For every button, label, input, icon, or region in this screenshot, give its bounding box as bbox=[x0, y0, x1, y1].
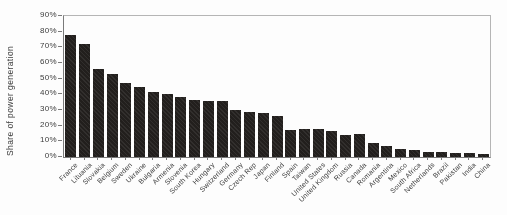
x-tick-mark bbox=[235, 157, 236, 160]
x-tick-mark bbox=[455, 157, 456, 160]
x-tick-mark bbox=[400, 157, 401, 160]
y-tick-mark bbox=[58, 31, 62, 32]
bar bbox=[93, 69, 104, 157]
bar bbox=[162, 94, 173, 157]
x-tick-mark bbox=[194, 157, 195, 160]
x-tick-mark bbox=[413, 157, 414, 160]
y-tick-label: 40% bbox=[27, 88, 57, 98]
y-tick-mark bbox=[58, 15, 62, 16]
y-tick-label: 0% bbox=[27, 151, 57, 161]
y-axis-title: Share of power generation bbox=[5, 15, 15, 156]
bar bbox=[285, 130, 296, 157]
x-tick-mark bbox=[317, 157, 318, 160]
plot-area bbox=[63, 15, 491, 158]
bar bbox=[340, 135, 351, 157]
bar bbox=[326, 131, 337, 157]
bar bbox=[175, 97, 186, 157]
x-tick-mark bbox=[125, 157, 126, 160]
x-tick-mark bbox=[70, 157, 71, 160]
bar bbox=[79, 44, 90, 157]
y-tick-mark bbox=[58, 93, 62, 94]
bar bbox=[65, 35, 76, 157]
x-tick-mark bbox=[262, 157, 263, 160]
y-tick-mark bbox=[58, 125, 62, 126]
y-tick-mark bbox=[58, 62, 62, 63]
x-tick-mark bbox=[386, 157, 387, 160]
x-tick-mark bbox=[345, 157, 346, 160]
bar bbox=[107, 74, 118, 157]
y-tick-label: 50% bbox=[27, 73, 57, 83]
bar bbox=[217, 101, 228, 157]
y-tick-mark bbox=[58, 46, 62, 47]
nuclear-share-bar-chart: Share of power generation 0%10%20%30%40%… bbox=[0, 0, 507, 215]
x-tick-mark bbox=[358, 157, 359, 160]
y-tick-label: 90% bbox=[27, 10, 57, 20]
x-tick-mark bbox=[331, 157, 332, 160]
y-tick-label: 80% bbox=[27, 26, 57, 36]
bar bbox=[244, 112, 255, 157]
x-tick-mark bbox=[290, 157, 291, 160]
x-tick-mark bbox=[249, 157, 250, 160]
x-tick-mark bbox=[207, 157, 208, 160]
bar bbox=[395, 149, 406, 157]
x-tick-mark bbox=[303, 157, 304, 160]
x-tick-mark bbox=[152, 157, 153, 160]
y-tick-label: 60% bbox=[27, 57, 57, 67]
bar bbox=[464, 153, 475, 157]
bar bbox=[258, 113, 269, 157]
x-tick-mark bbox=[111, 157, 112, 160]
x-tick-mark bbox=[468, 157, 469, 160]
y-tick-label: 30% bbox=[27, 104, 57, 114]
x-tick-mark bbox=[97, 157, 98, 160]
bar bbox=[313, 129, 324, 157]
bar bbox=[368, 143, 379, 157]
bar bbox=[409, 150, 420, 157]
bar bbox=[423, 152, 434, 157]
bar bbox=[134, 87, 145, 158]
y-tick-label: 70% bbox=[27, 41, 57, 51]
y-tick-mark bbox=[58, 109, 62, 110]
bar bbox=[436, 152, 447, 157]
y-tick-mark bbox=[58, 156, 62, 157]
bar bbox=[120, 83, 131, 157]
x-tick-mark bbox=[180, 157, 181, 160]
y-tick-mark bbox=[58, 140, 62, 141]
bar bbox=[272, 116, 283, 157]
bar bbox=[189, 100, 200, 157]
bar bbox=[450, 153, 461, 157]
x-tick-mark bbox=[427, 157, 428, 160]
bar bbox=[354, 134, 365, 158]
bar bbox=[230, 110, 241, 157]
x-tick-mark bbox=[372, 157, 373, 160]
x-tick-mark bbox=[221, 157, 222, 160]
bar bbox=[203, 101, 214, 157]
x-tick-mark bbox=[441, 157, 442, 160]
x-tick-mark bbox=[84, 157, 85, 160]
y-tick-mark bbox=[58, 78, 62, 79]
y-tick-label: 10% bbox=[27, 135, 57, 145]
y-tick-label: 20% bbox=[27, 120, 57, 130]
x-tick-mark bbox=[139, 157, 140, 160]
bar bbox=[381, 146, 392, 157]
bar bbox=[148, 92, 159, 157]
bar bbox=[299, 129, 310, 157]
x-tick-mark bbox=[166, 157, 167, 160]
x-tick-mark bbox=[276, 157, 277, 160]
bar bbox=[478, 154, 489, 157]
x-tick-mark bbox=[482, 157, 483, 160]
